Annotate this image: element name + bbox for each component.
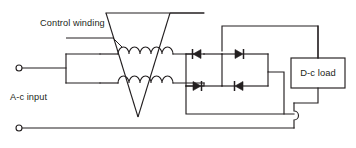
- ac-terminal-top-icon: [16, 65, 22, 71]
- circuit-diagram: Control winding A-c input: [0, 0, 356, 148]
- control-winding-label: Control winding: [40, 18, 105, 28]
- dc-load-label: D-c load: [300, 67, 336, 78]
- ac-terminal-bottom-icon: [16, 125, 22, 131]
- ac-input-label: A-c input: [10, 92, 48, 102]
- schematic-canvas: Control winding A-c input: [0, 0, 356, 148]
